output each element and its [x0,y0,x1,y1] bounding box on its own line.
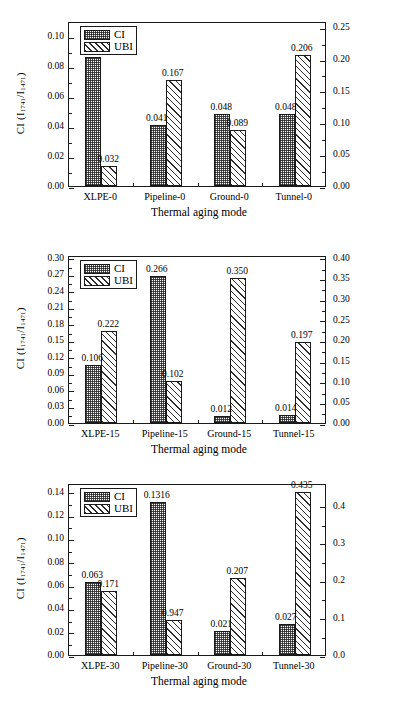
bar-value-label-ci: 0.106 [70,354,114,364]
bar-value-label-ci: 0.1316 [135,491,179,501]
y-ticklabel-right: 0.25 [333,316,373,326]
bar-ubi [230,578,246,655]
bar-ubi [166,620,182,655]
y-minor-tick-left [69,645,72,646]
bar-ci [85,57,101,186]
y-tick-right [320,29,325,30]
bar-ubi [295,492,311,655]
x-minor-tick [262,183,263,186]
y-minor-tick-left [69,268,72,269]
bar-value-label-ubi: 0.032 [86,155,130,165]
y-ticklabel-left: 0.00 [26,182,64,192]
bar-value-label-ci: 0.048 [264,103,308,113]
legend: CIUBI [80,26,137,55]
y-ticklabel-left: 0.04 [26,122,64,132]
y-axis-title-left: CI (I1741/I1471) [14,508,27,628]
y-minor-tick-right [322,394,325,395]
y-minor-tick-right [322,414,325,415]
y-minor-tick-left [69,143,72,144]
y-tick-left [69,309,74,310]
y-minor-tick-right [322,290,325,291]
bar-ubi [166,381,182,423]
bar-value-label-ubi: 0.947 [151,609,195,619]
y-ticklabel-left: 0.14 [26,488,64,498]
y-tick-right [320,92,325,93]
y-ticklabel-left: 0.06 [26,386,64,396]
x-ticklabel: Tunnel-30 [254,661,334,671]
y-tick-left [69,633,74,634]
y-tick-left [69,98,74,99]
y-ticklabel-right: 0.0 [333,651,373,661]
y-ticklabel-right: 0.30 [333,295,373,305]
y-ticklabel-left: 0.10 [26,32,64,42]
y-tick-left [69,517,74,518]
y-tick-right [320,544,325,545]
x-minor-tick [198,183,199,186]
y-minor-tick-left [69,528,72,529]
y-tick-right [320,404,325,405]
bar-ci [279,415,295,423]
y-ticklabel-right: 0.05 [333,150,373,160]
y-ticklabel-right: 0.35 [333,274,373,284]
bar-ci [150,125,166,187]
y-ticklabel-left: 0.15 [26,336,64,346]
bar-value-label-ci: 0.041 [135,114,179,124]
y-ticklabel-right: 0.00 [333,419,373,429]
bar-value-label-ubi: 0.167 [151,69,195,79]
y-minor-tick-left [69,301,72,302]
y-minor-tick-left [69,334,72,335]
y-minor-tick-left [69,505,72,506]
legend: CIUBI [80,488,137,517]
y-tick-right [320,61,325,62]
y-minor-tick-right [322,563,325,564]
bar-value-label-ubi: 0.206 [280,44,324,54]
y-ticklabel-right: 0.40 [333,254,373,264]
legend-label-ubi: UBI [114,41,133,52]
y-ticklabel-right: 0.05 [333,398,373,408]
y-minor-tick-right [322,526,325,527]
y-tick-right [320,582,325,583]
y-minor-tick-right [322,638,325,639]
bar-value-label-ubi: 0.102 [151,370,195,380]
x-minor-tick [262,652,263,655]
y-tick-left [69,292,74,293]
legend-swatch-ubi-icon [84,504,110,514]
legend-item-ubi: UBI [84,41,133,52]
y-minor-tick-right [322,311,325,312]
chart-panel-b: 0.000.030.060.090.120.150.180.210.240.27… [0,228,398,466]
y-tick-left [69,587,74,588]
bar-ci [150,502,166,655]
bar-ubi [295,55,311,186]
y-tick-left [69,493,74,494]
y-minor-tick-left [69,113,72,114]
y-minor-tick-right [322,76,325,77]
figure-container: 0.000.020.040.060.080.100.000.050.100.15… [0,0,398,704]
y-ticklabel-right: 0.1 [333,614,373,624]
bar-value-label-ubi: 0.350 [215,267,259,277]
legend-item-ci: CI [84,491,133,502]
bar-value-label-ubi: 0.207 [215,567,259,577]
legend-swatch-ci-icon [84,30,110,40]
y-tick-left [69,158,74,159]
y-ticklabel-left: 0.04 [26,604,64,614]
y-minor-tick-left [69,367,72,368]
bar-value-label-ci: 0.027 [264,613,308,623]
x-ticklabel: Tunnel-15 [254,429,334,439]
y-minor-tick-left [69,622,72,623]
y-minor-tick-right [322,172,325,173]
y-tick-left [69,657,74,658]
legend-swatch-ubi-icon [84,42,110,52]
x-minor-tick [198,652,199,655]
y-tick-right [320,156,325,157]
y-tick-left [69,425,74,426]
y-minor-tick-left [69,284,72,285]
bar-value-label-ubi: 0.171 [86,580,130,590]
y-ticklabel-left: 0.10 [26,534,64,544]
bar-value-label-ubi: 0.435 [280,481,324,491]
y-ticklabel-right: 0.15 [333,87,373,97]
y-minor-tick-right [322,270,325,271]
y-ticklabel-right: 0.3 [333,539,373,549]
legend-item-ubi: UBI [84,503,133,514]
x-ticklabel: Tunnel-0 [254,192,334,202]
x-axis-title: Thermal aging mode [0,443,398,455]
